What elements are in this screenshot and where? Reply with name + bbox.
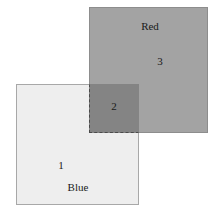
red-region-label: Red: [141, 21, 159, 32]
overlap-region-number: 2: [111, 101, 117, 112]
red-region-number: 3: [157, 56, 163, 67]
blue-region-label: Blue: [68, 182, 89, 193]
blue-region-number: 1: [58, 160, 64, 171]
diagram-canvas: Red 3 2 1 Blue: [0, 0, 219, 213]
